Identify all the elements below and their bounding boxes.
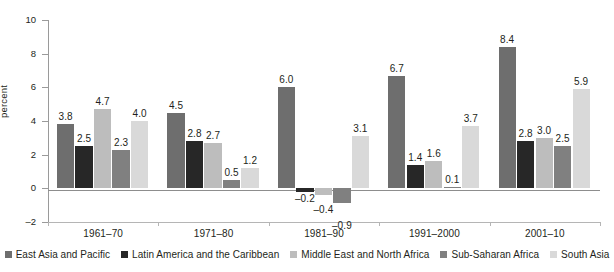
bar-value-label: 5.9 (566, 76, 596, 87)
bar-value-label: 6.7 (382, 63, 412, 74)
legend-swatch-icon (290, 251, 297, 258)
legend-swatch-icon (121, 251, 128, 258)
bar (112, 150, 129, 189)
bar (517, 141, 534, 188)
legend-swatch-icon (5, 251, 12, 258)
x-axis-category-label: 1961–70 (53, 228, 153, 239)
bar-value-label: 1.2 (235, 155, 265, 166)
y-axis-tick-label: 0 (8, 183, 36, 193)
legend-item-label: Middle East and North Africa (301, 249, 429, 260)
x-axis-tick (48, 222, 49, 226)
bar (388, 76, 405, 189)
bar (499, 47, 516, 188)
legend-item[interactable]: East Asia and Pacific (5, 249, 110, 260)
legend-item-label: Sub-Saharan Africa (451, 249, 539, 260)
legend-item-label: South Asia (561, 249, 609, 260)
bar (167, 113, 184, 189)
legend-item[interactable]: Sub-Saharan Africa (440, 249, 539, 260)
bar (131, 121, 148, 188)
bar (278, 87, 295, 188)
y-axis-tick-label: 6 (8, 82, 36, 92)
x-axis-tick (490, 222, 491, 226)
bar-value-label: 3.1 (345, 123, 375, 134)
y-axis-tick-label: 8 (8, 49, 36, 59)
y-axis-tick-label: –2 (8, 217, 36, 227)
x-axis-category-label: 1991–2000 (384, 228, 484, 239)
legend-item[interactable]: South Asia (550, 249, 609, 260)
bar (444, 187, 461, 189)
y-axis-tick (42, 54, 48, 55)
bar-value-label: 4.5 (161, 100, 191, 111)
y-axis-tick-label: 10 (8, 15, 36, 25)
bar-value-label: 2.7 (198, 130, 228, 141)
bar (94, 109, 111, 188)
bar (204, 143, 221, 188)
x-axis-category-label: 1981–90 (274, 228, 374, 239)
legend-item[interactable]: Middle East and North Africa (290, 249, 429, 260)
bar-value-label: 1.6 (419, 148, 449, 159)
bar (462, 126, 479, 188)
bar (536, 138, 553, 189)
x-axis-tick (600, 222, 601, 226)
legend-swatch-icon (440, 251, 447, 258)
bar (75, 146, 92, 188)
y-axis-tick (42, 188, 48, 189)
x-axis-tick (158, 222, 159, 226)
y-axis-tick (42, 121, 48, 122)
bar-value-label: 3.7 (456, 113, 486, 124)
bar (241, 168, 258, 188)
bar (573, 89, 590, 188)
bar-value-label: 6.0 (271, 74, 301, 85)
legend-item-label: East Asia and Pacific (16, 249, 110, 260)
bar-value-label: 4.7 (88, 96, 118, 107)
bar-value-label: –0.4 (308, 204, 338, 215)
x-axis-category-label: 2001–10 (495, 228, 595, 239)
x-axis-category-label: 1971–80 (164, 228, 264, 239)
y-axis-tick (42, 20, 48, 21)
y-axis-tick (42, 87, 48, 88)
x-axis-tick (379, 222, 380, 226)
bar (333, 188, 350, 203)
y-axis-line (48, 20, 49, 222)
x-axis-tick (269, 222, 270, 226)
bar-value-label: 8.4 (492, 34, 522, 45)
bar (315, 188, 332, 195)
bar (554, 146, 571, 188)
legend-item-label: Latin America and the Caribbean (132, 249, 279, 260)
bar-value-label: 4.0 (125, 108, 155, 119)
bar (352, 136, 369, 188)
legend: East Asia and PacificLatin America and t… (0, 249, 614, 260)
bar (223, 180, 240, 188)
x-axis-line (48, 222, 600, 223)
bar (296, 188, 313, 191)
bar (407, 165, 424, 189)
y-axis-tick-label: 4 (8, 116, 36, 126)
y-axis-tick-label: 2 (8, 150, 36, 160)
bar-chart: percent –20246810 3.82.54.72.34.04.52.82… (0, 0, 614, 272)
bar-value-label: 3.8 (51, 111, 81, 122)
bar (186, 141, 203, 188)
legend-swatch-icon (550, 251, 557, 258)
legend-item[interactable]: Latin America and the Caribbean (121, 249, 279, 260)
y-axis-tick (42, 155, 48, 156)
